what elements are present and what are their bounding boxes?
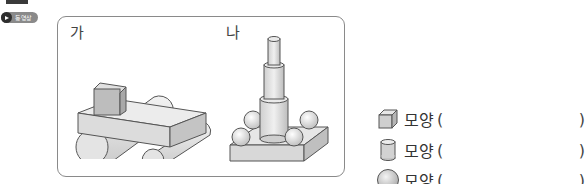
- cylinder-shape: [260, 95, 288, 143]
- shape-word: 모양: [404, 107, 434, 131]
- sphere-icon: [375, 167, 401, 184]
- paren-open: (: [437, 141, 443, 160]
- sphere-shape: [244, 111, 262, 129]
- sphere-shape: [232, 128, 250, 146]
- paren-close: ): [579, 141, 585, 160]
- video-badge[interactable]: 동영상: [1, 12, 38, 23]
- cube-icon: [375, 106, 401, 132]
- shape-word: 모양: [404, 138, 434, 162]
- paren-open: (: [437, 110, 443, 129]
- answer-row-sphere: 모양 ( ): [375, 167, 587, 184]
- play-icon: [1, 12, 12, 23]
- answer-row-cylinder: 모양 ( ): [375, 137, 587, 163]
- paren-open: (: [437, 171, 443, 185]
- cylinder-icon: [375, 137, 401, 163]
- video-badge-label: 동영상: [15, 13, 32, 22]
- cylinder-shape: [264, 62, 284, 99]
- figure-ga-illustration: [66, 49, 216, 159]
- figure-label-ga: 가: [70, 21, 84, 42]
- header-bar: [6, 0, 28, 4]
- paren-close: ): [579, 171, 585, 185]
- sphere-shape: [300, 111, 318, 129]
- figure-na-illustration: [218, 27, 338, 177]
- cube-shape: [94, 83, 126, 115]
- figure-panel: 가 나: [57, 16, 345, 177]
- cylinder-shape: [268, 37, 280, 66]
- sphere-shape: [285, 128, 303, 146]
- paren-close: ): [579, 110, 585, 129]
- answer-row-cube: 모양 ( ): [375, 106, 587, 132]
- shape-word: 모양: [404, 168, 434, 184]
